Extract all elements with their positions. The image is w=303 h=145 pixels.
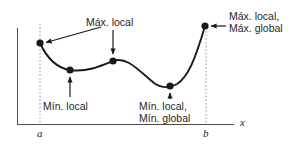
x-axis-label: x <box>240 117 245 128</box>
function-curve <box>40 26 205 87</box>
point-max-local-interior <box>109 57 116 64</box>
arrow-to-left-endpoint <box>46 27 101 43</box>
extrema-figure: Máx. local Máx. local,Máx. global Mín. l… <box>0 0 303 145</box>
annotation-max-local-top: Máx. local <box>86 16 133 28</box>
point-right-endpoint-max <box>201 22 208 29</box>
annotation-min-local-min-global: Mín. local,Mín. global <box>139 100 190 124</box>
axis-tick-label-a: a <box>37 128 43 139</box>
axis-tick-label-b: b <box>203 128 209 139</box>
annotation-line-2: Mín. global <box>139 112 190 124</box>
annotation-line-2: Máx. global <box>229 22 283 34</box>
annotation-line-1: Máx. local, <box>229 10 279 22</box>
point-min-local-min-global <box>166 82 173 89</box>
point-min-local <box>66 66 73 73</box>
point-left-endpoint-max-local <box>36 39 43 46</box>
annotation-line-1: Mín. local, <box>139 100 187 112</box>
annotation-max-local-max-global: Máx. local,Máx. global <box>229 10 283 34</box>
annotation-min-local: Mín. local <box>43 100 88 112</box>
